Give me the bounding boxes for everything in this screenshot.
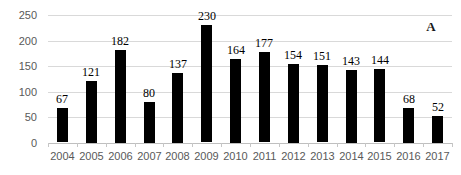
x-axis-tick xyxy=(192,143,193,147)
bar xyxy=(144,102,155,143)
bar-value-label: 230 xyxy=(187,10,227,23)
bar-value-label: 137 xyxy=(158,58,198,71)
x-axis-tick-label: 2014 xyxy=(337,149,366,163)
x-axis-tick xyxy=(250,143,251,147)
x-axis-tick xyxy=(279,143,280,147)
x-axis-tick xyxy=(308,143,309,147)
x-axis-tick-label: 2015 xyxy=(365,149,394,163)
bar xyxy=(403,108,414,143)
x-axis-tick-label: 2013 xyxy=(308,149,337,163)
x-axis-tick xyxy=(423,143,424,147)
y-axis-tick-label: 0 xyxy=(6,136,37,150)
y-axis-tick-label: 250 xyxy=(6,8,37,22)
bar-value-label: 144 xyxy=(360,54,400,67)
x-axis-tick xyxy=(135,143,136,147)
y-axis-tick-label: 150 xyxy=(6,59,37,73)
x-axis-tick-label: 2006 xyxy=(106,149,135,163)
x-axis-tick-label: 2016 xyxy=(394,149,423,163)
gridline xyxy=(48,117,452,118)
bar-value-label: 52 xyxy=(418,101,458,114)
bar xyxy=(288,64,299,143)
x-axis-tick-label: 2012 xyxy=(279,149,308,163)
bar xyxy=(57,108,68,142)
x-axis-tick-label: 2010 xyxy=(221,149,250,163)
x-axis-tick xyxy=(77,143,78,147)
bar xyxy=(86,81,97,143)
bar xyxy=(259,52,270,142)
x-axis-tick-label: 2005 xyxy=(77,149,106,163)
x-axis-tick xyxy=(452,143,453,147)
bar xyxy=(374,69,385,142)
y-axis-tick-label: 50 xyxy=(6,110,37,124)
bar xyxy=(346,70,357,143)
bar-value-label: 67 xyxy=(42,93,82,106)
bar xyxy=(172,73,183,143)
x-axis-tick xyxy=(337,143,338,147)
y-axis-tick-label: 200 xyxy=(6,34,37,48)
panel-label: A xyxy=(421,19,441,35)
bar xyxy=(201,25,212,142)
x-axis-tick-label: 2008 xyxy=(163,149,192,163)
x-axis-tick-label: 2009 xyxy=(192,149,221,163)
x-axis-tick xyxy=(163,143,164,147)
bar xyxy=(230,59,241,143)
bar-value-label: 182 xyxy=(100,35,140,48)
x-axis-tick xyxy=(221,143,222,147)
bar-chart: 050100150200250 671211828013723016417715… xyxy=(0,0,461,175)
bar xyxy=(317,65,328,142)
x-axis-tick xyxy=(394,143,395,147)
gridline xyxy=(48,15,452,16)
bar-value-label: 121 xyxy=(71,66,111,79)
x-axis-tick xyxy=(106,143,107,147)
x-axis-tick xyxy=(48,143,49,147)
x-axis-tick xyxy=(365,143,366,147)
bar xyxy=(115,50,126,143)
x-axis-tick-label: 2007 xyxy=(135,149,164,163)
x-axis-tick-label: 2004 xyxy=(48,149,77,163)
bar xyxy=(432,116,443,143)
x-axis-tick-label: 2017 xyxy=(423,149,452,163)
bar-value-label: 80 xyxy=(129,87,169,100)
x-axis-tick-label: 2011 xyxy=(250,149,279,163)
y-axis-tick-label: 100 xyxy=(6,85,37,99)
